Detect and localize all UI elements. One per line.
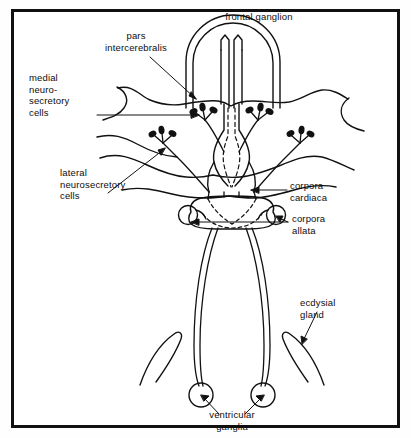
figure-page: frontal ganglion pars intercerebralis me… [0,0,411,438]
ecdysial-gland-shapes [140,332,324,385]
medial-neurosecretory-cells-right [239,102,275,152]
label-corpora-allata: corpora allata [292,213,362,236]
label-lateral-neurosecretory-cells: lateral neurosecretory cells [60,167,176,202]
label-pars-intercerebralis: pars intercerebralis [80,30,192,53]
recurrent-nerve-cords [194,228,270,386]
label-medial-neurosecretory-cells: medial neuro- secretory cells [29,72,105,118]
label-frontal-ganglion: frontal ganglion [204,11,314,23]
median-nerve-tract [208,104,256,192]
leader-lines [97,57,317,414]
frontal-ganglion-shape [186,15,280,108]
label-corpora-cardiaca: corpora cardiaca [290,180,366,203]
label-ecdysial-gland: ecdysial gland [300,297,364,320]
medial-neurosecretory-cells-left [188,102,224,152]
label-ventricular-ganglia: ventricular ganglia [187,409,277,432]
leader-pars-intercerebralis [150,57,196,99]
corpora-cardiaca-shape [189,192,276,229]
